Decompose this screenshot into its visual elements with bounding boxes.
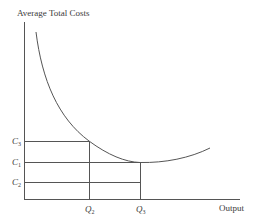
tick-q2: Q2: [85, 205, 95, 215]
tick-q3: Q3: [136, 205, 146, 215]
chart-canvas: [0, 0, 254, 223]
tick-c2: C2: [12, 178, 21, 188]
atc-curve: [36, 32, 210, 163]
tick-c1: C1: [12, 158, 21, 168]
x-axis-label: Output: [219, 204, 244, 213]
y-axis-label: Average Total Costs: [17, 9, 90, 18]
tick-c3: C3: [12, 137, 21, 147]
